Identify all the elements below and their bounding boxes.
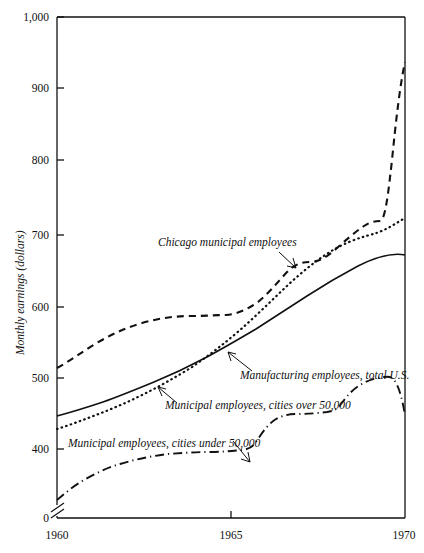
series-label-under50k: Municipal employees, cities under 50,000: [67, 437, 261, 450]
series-label-manufacturing: Manufacturing employees, total U.S.: [239, 369, 409, 382]
series-label-chicago: Chicago municipal employees: [158, 236, 297, 249]
x-tick-label-1960: 1960: [46, 529, 69, 541]
y-tick-label-900: 900: [32, 82, 50, 94]
y-tick-label-0: 0: [43, 512, 49, 524]
series-chicago-municipal-employees: [57, 62, 405, 368]
series-label-over50k: Municipal employees, cities over 50,000: [164, 399, 351, 412]
y-tick-label-700: 700: [32, 229, 50, 241]
series-municipal-over-50000: [57, 218, 405, 429]
chart-canvas: 1,000 900 800 700 600 500 400 0 1960 196…: [0, 0, 424, 553]
y-tick-label-800: 800: [32, 154, 50, 166]
y-tick-label-600: 600: [32, 301, 50, 313]
y-tick-label-1000: 1,000: [23, 11, 49, 24]
y-tick-label-400: 400: [32, 443, 50, 455]
x-tick-label-1970: 1970: [393, 529, 416, 541]
y-axis-title: Monthly earnings (dollars): [14, 230, 27, 356]
y-tick-marks: [57, 17, 64, 449]
y-tick-label-500: 500: [32, 372, 50, 384]
chart-figure: 1,000 900 800 700 600 500 400 0 1960 196…: [0, 0, 424, 553]
x-tick-label-1965: 1965: [220, 529, 243, 541]
